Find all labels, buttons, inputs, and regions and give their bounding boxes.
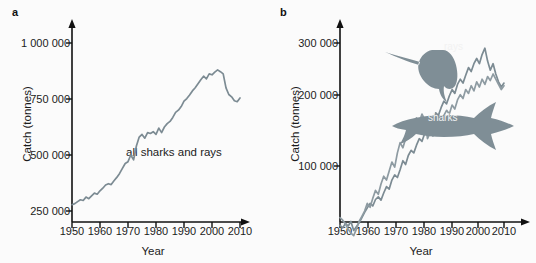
- panel-a-x-axis-label: Year: [78, 245, 228, 257]
- panel-a-annotation: all sharks and rays: [126, 146, 222, 158]
- panel-a-xtick-2010: 2010: [225, 225, 255, 237]
- panel-b-ytick-200000: 200 000: [272, 89, 338, 101]
- panel-b-xtick-1980: 1980: [409, 225, 439, 237]
- panel-b-xtick-1960: 1960: [353, 225, 383, 237]
- shark-icon: [392, 102, 514, 150]
- panel-a-xtick-1950: 1950: [57, 225, 87, 237]
- figure-container: a Catch (tonnes) Year 1 000 000 750 000 …: [0, 0, 536, 263]
- ray-icon: [385, 50, 457, 102]
- panel-a-letter: a: [12, 6, 18, 18]
- panel-a-xtick-1990: 1990: [169, 225, 199, 237]
- panel-a-ytick-500000: 500 000: [2, 149, 70, 161]
- panel-a: a Catch (tonnes) Year 1 000 000 750 000 …: [0, 0, 268, 263]
- panel-b-xtick-1970: 1970: [381, 225, 411, 237]
- rays-series-label: rays: [444, 41, 463, 52]
- panel-b-x-axis-label: Year: [346, 245, 496, 257]
- panel-b-ytick-100000: 100 000: [272, 160, 338, 172]
- panel-a-ytick-1000000: 1 000 000: [2, 37, 70, 49]
- panel-a-xtick-2000: 2000: [197, 225, 227, 237]
- panel-a-axes: [66, 19, 250, 228]
- sharks-series-label: sharks: [428, 112, 457, 123]
- panel-a-series-all-sharks-and-rays: [72, 70, 240, 205]
- panel-a-xtick-1970: 1970: [113, 225, 143, 237]
- panel-a-ytick-250000: 250 000: [2, 205, 70, 217]
- panel-b: b Catch (tonnes) Year 300 000 200 000 10…: [268, 0, 536, 263]
- panel-b-xtick-2010: 2010: [489, 225, 519, 237]
- panel-b-ytick-300000: 300 000: [272, 37, 338, 49]
- panel-a-xtick-1960: 1960: [85, 225, 115, 237]
- panel-a-y-axis-label: Catch (tonnes): [21, 69, 33, 179]
- panel-a-ytick-750000: 750 000: [2, 93, 70, 105]
- panel-b-series-rays: [340, 48, 504, 230]
- panel-b-letter: b: [280, 6, 287, 18]
- panel-b-axes: [334, 19, 530, 228]
- panel-b-series-sharks: [340, 74, 504, 236]
- panel-b-xtick-1950: 1950: [325, 225, 355, 237]
- panel-a-xtick-1980: 1980: [141, 225, 171, 237]
